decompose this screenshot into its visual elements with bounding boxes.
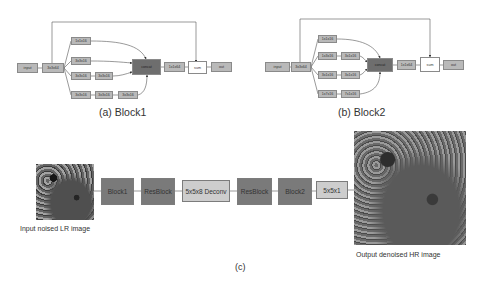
block2-concat-node: concat: [367, 58, 393, 72]
block1-input-node: input: [17, 63, 38, 73]
block1-projection-conv: 1x1x64: [164, 62, 185, 72]
block2-stem-conv: 3x3x64: [291, 62, 311, 72]
block1-concat-node: concat: [132, 59, 161, 75]
block2-sum-node: sum: [420, 57, 440, 72]
block1-branch2-conv1: 3x3x16: [71, 57, 91, 65]
block1-branch3-conv2: 3x3x16: [95, 72, 113, 80]
pipeline-stage-block1: Block1: [101, 178, 134, 205]
block1-branch4-conv3: 3x3x16: [118, 91, 138, 99]
block1-caption: (a) Block1: [99, 106, 146, 118]
pipeline-stage-block2: Block2: [278, 178, 312, 205]
block1-branch1-conv1: 1x1x16: [71, 37, 91, 45]
pipeline-stage-deconv: 5x5x8 Deconv: [182, 180, 230, 202]
pipeline-stage-resblock-2: ResBlock: [237, 178, 272, 205]
block1-branch4-conv1: 3x3x16: [71, 91, 91, 99]
block2-projection-conv: 1x1x64: [397, 60, 416, 70]
block2-branch4-conv1: 1x7x16: [318, 90, 337, 98]
block2-caption: (b) Block2: [338, 106, 385, 118]
block1-output-node: out: [211, 62, 232, 72]
pipeline-stage-final-conv: 5x5x1: [316, 181, 348, 199]
input-image-caption: Input noised LR image: [20, 225, 90, 232]
input-noised-lr-image: [36, 164, 94, 220]
architecture-figure: input 3x3x64 1x1x16 3x3x16 3x3x16 3x3x16…: [0, 0, 485, 296]
output-denoised-hr-image: [354, 131, 466, 245]
block2-branch2-conv1: 1x3x16: [318, 52, 337, 60]
pipeline-caption: (c): [235, 262, 246, 272]
block1-branch4-conv2: 3x3x16: [95, 91, 113, 99]
block2-input-node: input: [265, 62, 290, 72]
block1-branch3-conv1: 3x3x16: [71, 72, 91, 80]
block1-stem-conv: 3x3x64: [42, 63, 64, 73]
block2-branch3-conv2: 3x1x16: [341, 71, 360, 79]
block2-branch1-conv1: 1x1x16: [318, 35, 337, 43]
block2-branch3-conv1: 3x1x16: [318, 71, 337, 79]
block2-output-node: out: [443, 60, 464, 70]
block2-branch4-conv2: 7x1x16: [341, 90, 360, 98]
block1-sum-node: sum: [188, 61, 207, 74]
pipeline-stage-resblock-1: ResBlock: [141, 178, 175, 205]
output-image-caption: Output denoised HR image: [356, 251, 440, 258]
block2-branch2-conv2: 3x1x16: [341, 52, 360, 60]
